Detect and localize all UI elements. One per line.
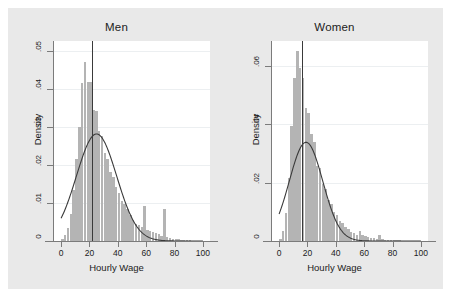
y-tick-women-3	[265, 66, 271, 67]
y-tick-men-2	[47, 165, 53, 166]
normal-curve-men	[54, 41, 210, 241]
x-tick-label-women-5: 100	[409, 248, 433, 258]
y-tick-men-3	[47, 127, 53, 128]
y-tick-label-men-3: .03	[30, 118, 46, 127]
x-tick-men-0	[61, 242, 62, 247]
x-tick-women-4	[393, 242, 394, 247]
plot-area-men	[54, 41, 210, 241]
x-tick-women-1	[307, 242, 308, 247]
y-tick-label-men-5: .05	[30, 42, 46, 51]
x-tick-women-5	[421, 242, 422, 247]
x-tick-men-1	[89, 242, 90, 247]
y-axis-line-men	[53, 41, 54, 242]
reference-line-men	[92, 41, 93, 241]
y-tick-label-men-0: 0	[30, 232, 46, 241]
x-tick-label-men-2: 40	[106, 248, 130, 258]
panel-title-men: Men	[8, 21, 225, 33]
normal-curve-women	[272, 41, 428, 241]
y-tick-men-0	[47, 241, 53, 242]
x-tick-label-men-1: 20	[77, 248, 101, 258]
plot-area-women	[272, 41, 428, 241]
figure-canvas: Men Density Hourly Wage 0.01.02.03.04.05…	[0, 0, 451, 304]
x-tick-label-men-5: 100	[191, 248, 215, 258]
x-tick-label-women-2: 40	[324, 248, 348, 258]
y-tick-men-5	[47, 51, 53, 52]
y-tick-label-women-0: 0	[248, 232, 264, 241]
y-tick-women-0	[265, 241, 271, 242]
x-axis-line-men	[45, 241, 218, 242]
x-tick-label-women-0: 0	[267, 248, 291, 258]
y-tick-label-men-4: .04	[30, 80, 46, 89]
x-tick-label-women-3: 60	[352, 248, 376, 258]
x-axis-title-women: Hourly Wage	[226, 262, 443, 273]
x-tick-label-men-0: 0	[49, 248, 73, 258]
reference-line-women	[302, 41, 303, 241]
panel-men: Men Density Hourly Wage 0.01.02.03.04.05…	[8, 8, 225, 289]
x-tick-men-2	[118, 242, 119, 247]
y-axis-line-women	[271, 41, 272, 242]
y-tick-men-1	[47, 203, 53, 204]
x-tick-men-3	[146, 242, 147, 247]
x-axis-title-men: Hourly Wage	[8, 262, 225, 273]
y-tick-label-women-3: .06	[248, 57, 264, 66]
y-tick-men-4	[47, 89, 53, 90]
x-tick-men-4	[175, 242, 176, 247]
x-tick-label-men-3: 60	[134, 248, 158, 258]
panel-women: Women Density Hourly Wage 0.02.04.060204…	[226, 8, 443, 289]
x-tick-men-5	[203, 242, 204, 247]
x-tick-women-0	[279, 242, 280, 247]
y-tick-label-men-2: .02	[30, 156, 46, 165]
x-axis-line-women	[263, 241, 436, 242]
y-tick-women-1	[265, 183, 271, 184]
x-tick-label-women-4: 80	[381, 248, 405, 258]
y-tick-label-women-1: .02	[248, 174, 264, 183]
y-tick-label-men-1: .01	[30, 194, 46, 203]
x-tick-label-women-1: 20	[295, 248, 319, 258]
y-tick-women-2	[265, 124, 271, 125]
x-tick-women-3	[364, 242, 365, 247]
panel-title-women: Women	[226, 21, 443, 33]
y-tick-label-women-2: .04	[248, 115, 264, 124]
x-tick-women-2	[336, 242, 337, 247]
x-tick-label-men-4: 80	[163, 248, 187, 258]
